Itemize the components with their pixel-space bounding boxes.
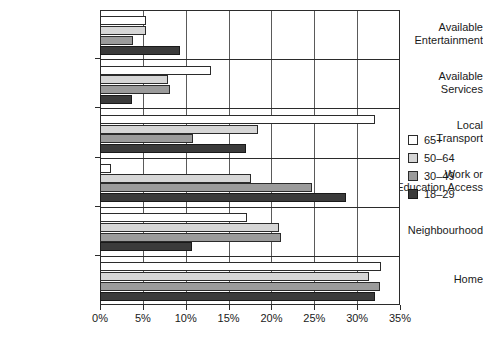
- chart-legend: 65+50–6430–4918–29: [408, 131, 480, 203]
- bar-65+-home: [100, 262, 381, 271]
- bar-1829-home: [100, 292, 375, 301]
- x-axis-label-20pct: 20%: [251, 312, 291, 325]
- bar-5064-available-entertainment: [100, 26, 146, 35]
- legend-swatch-icon: [408, 189, 418, 199]
- bar-3049-neighbourhood: [100, 233, 281, 242]
- bar-3049-home: [100, 282, 380, 291]
- x-axis-tick: [186, 305, 187, 310]
- x-axis-tick: [314, 305, 315, 310]
- legend-item-65+[interactable]: 65+: [408, 131, 480, 149]
- category-label-home: Home: [389, 273, 483, 286]
- bar-3049-available-services: [100, 85, 170, 94]
- x-axis-label-25pct: 25%: [294, 312, 334, 325]
- x-axis-tick: [143, 305, 144, 310]
- category-label-available-entertainment: Available Entertainment: [389, 21, 483, 47]
- bar-5064-work-or-education-access: [100, 174, 251, 183]
- category-label-neighbourhood: Neighbourhood: [389, 224, 483, 237]
- plot-area: [100, 10, 400, 305]
- category-separator: [101, 59, 399, 60]
- x-axis-tick: [357, 305, 358, 310]
- legend-label: 65+: [424, 134, 443, 147]
- bar-5064-neighbourhood: [100, 223, 279, 232]
- x-axis-tick: [100, 305, 101, 310]
- legend-label: 50–64: [424, 152, 455, 165]
- category-separator: [101, 207, 399, 208]
- legend-item-1829[interactable]: 18–29: [408, 185, 480, 203]
- x-axis-label-10pct: 10%: [166, 312, 206, 325]
- legend-swatch-icon: [408, 171, 418, 181]
- x-axis-tick: [229, 305, 230, 310]
- legend-label: 18–29: [424, 188, 455, 201]
- bar-65+-available-entertainment: [100, 16, 146, 25]
- bar-5064-local-transport: [100, 125, 258, 134]
- category-separator: [101, 256, 399, 257]
- x-axis-label-5pct: 5%: [123, 312, 163, 325]
- x-axis-label-30pct: 30%: [337, 312, 377, 325]
- legend-swatch-icon: [408, 153, 418, 163]
- bar-1829-available-services: [100, 95, 132, 104]
- legend-label: 30–49: [424, 170, 455, 183]
- bar-65+-local-transport: [100, 115, 375, 124]
- bar-5064-available-services: [100, 75, 168, 84]
- x-axis-label-15pct: 15%: [209, 312, 249, 325]
- x-axis-tick: [400, 305, 401, 310]
- bar-3049-local-transport: [100, 134, 193, 143]
- legend-item-3049[interactable]: 30–49: [408, 167, 480, 185]
- bar-chart-figure: Available EntertainmentAvailable Service…: [0, 0, 483, 338]
- bar-65+-available-services: [100, 66, 211, 75]
- x-axis-tick: [271, 305, 272, 310]
- bar-3049-work-or-education-access: [100, 183, 312, 192]
- bar-5064-home: [100, 272, 369, 281]
- x-axis-label-35pct: 35%: [380, 312, 420, 325]
- legend-swatch-icon: [408, 135, 418, 145]
- bar-65+-work-or-education-access: [100, 164, 111, 173]
- bar-1829-local-transport: [100, 144, 246, 153]
- legend-item-5064[interactable]: 50–64: [408, 149, 480, 167]
- bar-1829-work-or-education-access: [100, 193, 346, 202]
- bar-1829-available-entertainment: [100, 46, 180, 55]
- bar-1829-neighbourhood: [100, 242, 192, 251]
- category-separator: [101, 108, 399, 109]
- bar-65+-neighbourhood: [100, 213, 247, 222]
- x-axis-label-0pct: 0%: [80, 312, 120, 325]
- category-label-available-services: Available Services: [389, 70, 483, 96]
- category-separator: [101, 158, 399, 159]
- bar-3049-available-entertainment: [100, 36, 133, 45]
